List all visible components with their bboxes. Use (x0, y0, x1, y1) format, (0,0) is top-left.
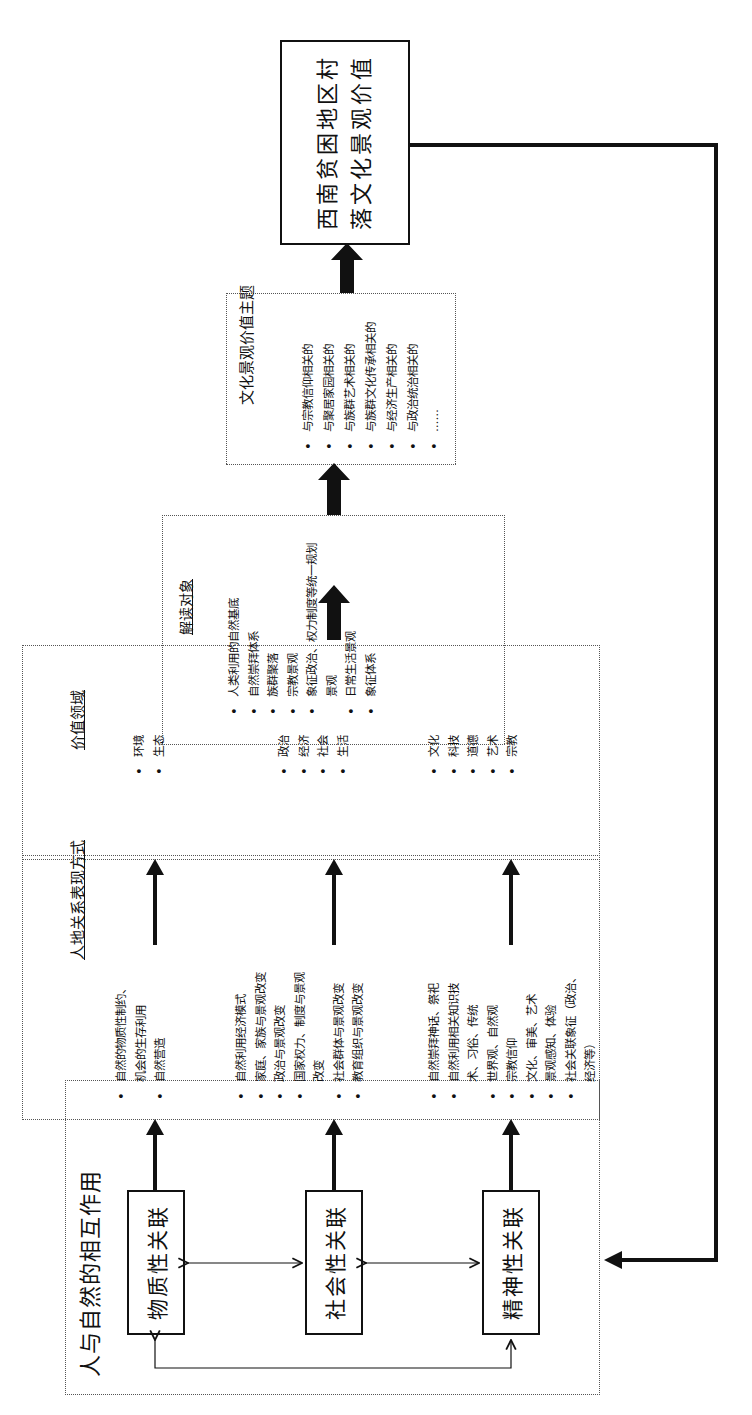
theme-list: 与宗教信仰相关的 与聚居家园相关的 与族群艺术相关的 与族群文化传承相关的 与经… (298, 322, 445, 450)
value-domain-heading: 价值领域 (66, 690, 87, 750)
list-item: 与政治统治相关的 (403, 322, 424, 450)
node-social-relation-label: 社会性关联 (319, 1205, 349, 1320)
list-item: …… (424, 322, 445, 450)
list-item: 国家权力、制度与景观 (291, 972, 311, 1100)
expression-list-social: 自然利用经济模式 家庭、家族与景观改变 政治与景观改变 国家权力、制度与景观 改… (232, 972, 369, 1100)
interpretation-heading: 解读对象 (175, 579, 195, 635)
final-node-line2: 落文化景观价值 (345, 55, 379, 230)
list-item: 术、习俗、传统 (464, 972, 484, 1100)
list-item: 宗教景观 (284, 543, 304, 715)
node-social-relation[interactable]: 社会性关联 (305, 1190, 363, 1335)
node-spiritual-relation-label: 精神性关联 (496, 1205, 526, 1320)
list-item: 与宗教信仰相关的 (298, 322, 319, 450)
list-item: 与族群文化传承相关的 (361, 322, 382, 450)
list-item: 经济等） (581, 972, 601, 1100)
theme-heading: 文化景观价值主题 (235, 285, 256, 405)
list-item: 与聚居家园相关的 (319, 322, 340, 450)
list-item: 宗教信仰 (503, 972, 523, 1100)
node-material-relation-label: 物质性关联 (141, 1205, 171, 1320)
list-item: 社会关联象征（政治、 (562, 972, 582, 1100)
list-item: 象征政治、权力制度等统一规划 (303, 543, 323, 715)
list-item: 改变 (310, 972, 330, 1100)
interpretation-list: 人类利用的自然基底 自然崇拜体系 族群聚落 宗教景观 象征政治、权力制度等统一规… (225, 543, 381, 715)
list-item: 环境 (130, 735, 150, 775)
list-item: 景观 (323, 543, 343, 715)
list-item: 自然利用经济模式 (232, 972, 252, 1100)
list-item: 景观感知、体验 (542, 972, 562, 1100)
list-item: 文化、审美、艺术 (523, 972, 543, 1100)
expression-list-spiritual: 自然崇拜神话、祭祀 自然利用相关知识技 术、习俗、传统 世界观、自然观 宗教信仰… (425, 972, 601, 1100)
list-item: 自然崇拜神话、祭祀 (425, 972, 445, 1100)
list-item: 政治与景观改变 (271, 972, 291, 1100)
expression-list-material: 自然的物质性制约、 机会的生存利用 自然营造 (112, 983, 171, 1100)
list-item: 教育组织与景观改变 (349, 972, 369, 1100)
list-item: 宗教 (503, 735, 523, 775)
list-item: 家庭、家族与景观改变 (252, 972, 272, 1100)
list-item: 与经济生产相关的 (382, 322, 403, 450)
list-item: 机会的生存利用 (132, 983, 152, 1100)
list-item: 人类利用的自然基底 (225, 543, 245, 715)
list-item: 自然的物质性制约、 (112, 983, 132, 1100)
list-item: 自然崇拜体系 (245, 543, 265, 715)
list-item: 日常生活景观 (342, 543, 362, 715)
interaction-group-title: 人与自然的相互作用 (72, 1170, 104, 1377)
node-spiritual-relation[interactable]: 精神性关联 (482, 1190, 540, 1335)
list-item: 族群聚落 (264, 543, 284, 715)
list-item: 象征体系 (362, 543, 382, 715)
final-node[interactable]: 西南贫困地区村 落文化景观价值 (280, 40, 410, 245)
list-item: 与族群艺术相关的 (340, 322, 361, 450)
list-item: 自然利用相关知识技 (445, 972, 465, 1100)
diagram-canvas: 人与自然的相互作用 物质性关联 社会性关联 精神性关联 人地关系表现方式 自然的… (0, 0, 752, 1415)
list-item: 自然营造 (151, 983, 171, 1100)
final-node-line1: 西南贫困地区村 (311, 55, 345, 230)
node-material-relation[interactable]: 物质性关联 (127, 1190, 185, 1335)
list-item: 社会群体与景观改变 (330, 972, 350, 1100)
list-item: 世界观、自然观 (484, 972, 504, 1100)
